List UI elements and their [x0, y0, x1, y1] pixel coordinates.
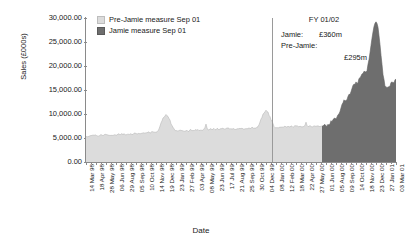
chart-legend: Pre-Jamie measure Sep 01 Jamie measure S…	[97, 14, 200, 36]
y-tick-label: 20,000.00	[8, 62, 82, 70]
pre-jamie-total-key: Pre-Jamie:	[281, 40, 391, 52]
x-tick-mark	[336, 162, 337, 165]
x-minor-tick-mark	[181, 162, 182, 164]
x-tick-label: 14 Mar 98	[89, 164, 95, 192]
x-tick-label: 21 Aug 99	[239, 164, 245, 192]
x-tick-label: 14 Nov 98	[159, 164, 165, 192]
x-tick-mark	[176, 162, 177, 165]
x-tick-mark	[206, 162, 207, 165]
x-axis-title: Date	[0, 226, 402, 235]
x-tick-mark	[246, 162, 247, 165]
legend-label-pre-jamie: Pre-Jamie measure Sep 01	[109, 14, 200, 25]
x-tick-label: 08 May 99	[209, 164, 215, 193]
x-tick-label: 18 Apr 98	[99, 164, 105, 191]
y-tick-label: 0.00	[8, 158, 82, 166]
y-axis-line	[85, 17, 86, 163]
x-minor-tick-mark	[291, 162, 292, 164]
x-minor-tick-mark	[301, 162, 302, 164]
x-tick-mark	[266, 162, 267, 165]
x-tick-mark	[396, 162, 397, 165]
x-tick-label: 19 Dec 98	[169, 164, 175, 192]
x-minor-tick-mark	[261, 162, 262, 164]
x-tick-label: 28 May 98	[109, 164, 115, 193]
x-minor-tick-mark	[381, 162, 382, 164]
x-minor-tick-mark	[271, 162, 272, 164]
x-minor-tick-mark	[171, 162, 172, 164]
x-minor-tick-mark	[371, 162, 372, 164]
x-tick-label: 23 Jun 99	[219, 164, 225, 191]
legend-item-pre-jamie: Pre-Jamie measure Sep 01	[97, 14, 200, 25]
x-tick-mark	[316, 162, 317, 165]
x-tick-mark	[236, 162, 237, 165]
x-minor-tick-mark	[131, 162, 132, 164]
x-tick-label: 09 Sep 00	[349, 164, 355, 192]
x-minor-tick-mark	[391, 162, 392, 164]
x-tick-label: 23 Jan 99	[179, 164, 185, 191]
x-tick-mark	[366, 162, 367, 165]
x-minor-tick-mark	[341, 162, 342, 164]
x-tick-mark	[86, 162, 87, 165]
y-tick-label: 25,000.00	[8, 38, 82, 46]
x-tick-label: 10 Oct 98	[149, 164, 155, 191]
x-tick-mark	[166, 162, 167, 165]
x-tick-mark	[386, 162, 387, 165]
y-axis-tick-labels: 30,000.0025,000.0020,000.0015,000.0010,0…	[8, 0, 82, 246]
y-tick-label: 15,000.00	[8, 86, 82, 94]
x-tick-mark	[186, 162, 187, 165]
x-tick-mark	[126, 162, 127, 165]
x-tick-mark	[136, 162, 137, 165]
x-minor-tick-mark	[151, 162, 152, 164]
x-tick-mark	[356, 162, 357, 165]
x-tick-mark	[346, 162, 347, 165]
x-tick-label: 01 Jun 00	[329, 164, 335, 191]
x-axis-tick-labels: 14 Mar 9818 Apr 9828 May 9806 Jun 9829 A…	[86, 164, 398, 220]
x-tick-label: 27 Jan 01	[389, 164, 395, 191]
x-tick-mark	[376, 162, 377, 165]
x-tick-label: 22 Apr 00	[309, 164, 315, 191]
y-tick-label: 10,000.00	[8, 110, 82, 118]
pre-jamie-total-value: £295m	[281, 52, 367, 64]
x-tick-label: 03 Mar 01	[399, 164, 405, 192]
x-minor-tick-mark	[231, 162, 232, 164]
x-minor-tick-mark	[91, 162, 92, 164]
legend-item-jamie: Jamie measure Sep 01	[97, 25, 200, 36]
jamie-total-key: Jamie:	[281, 29, 319, 41]
x-tick-label: 25 Sep 99	[249, 164, 255, 192]
x-minor-tick-mark	[331, 162, 332, 164]
x-tick-mark	[286, 162, 287, 165]
x-tick-mark	[326, 162, 327, 165]
x-tick-label: 04 Dec 99	[269, 164, 275, 192]
x-tick-mark	[96, 162, 97, 165]
x-tick-label: 27 May 00	[319, 164, 325, 193]
jamie-total-row: Jamie: £360m	[281, 29, 391, 41]
x-tick-label: 30 Oct 99	[259, 164, 265, 191]
x-minor-tick-mark	[321, 162, 322, 164]
x-tick-mark	[156, 162, 157, 165]
x-tick-mark	[146, 162, 147, 165]
x-tick-mark	[276, 162, 277, 165]
x-tick-label: 18 Mar 00	[299, 164, 305, 192]
x-tick-mark	[196, 162, 197, 165]
fy-annotation-block: FY 01/02 Jamie: £360m Pre-Jamie: £295m	[281, 14, 391, 63]
y-tick-label: 30,000.00	[8, 14, 82, 22]
y-tick-label: 5,000.00	[8, 134, 82, 142]
x-tick-mark	[106, 162, 107, 165]
x-tick-label: 14 Oct 00	[359, 164, 365, 191]
x-minor-tick-mark	[121, 162, 122, 164]
x-tick-mark	[296, 162, 297, 165]
x-minor-tick-mark	[251, 162, 252, 164]
x-tick-label: 17 Jul 99	[229, 164, 235, 189]
legend-swatch-pre-jamie	[97, 16, 105, 24]
x-minor-tick-mark	[201, 162, 202, 164]
x-tick-label: 18 Nov 00	[369, 164, 375, 192]
x-minor-tick-mark	[241, 162, 242, 164]
x-tick-label: 12 Feb 00	[289, 164, 295, 192]
x-minor-tick-mark	[311, 162, 312, 164]
x-tick-label: 29 Aug 98	[129, 164, 135, 192]
x-tick-mark	[256, 162, 257, 165]
x-tick-label: 08 Jan 00	[279, 164, 285, 191]
fy-label: FY 01/02	[281, 14, 367, 26]
x-tick-label: 06 Jun 98	[119, 164, 125, 191]
x-minor-tick-mark	[281, 162, 282, 164]
